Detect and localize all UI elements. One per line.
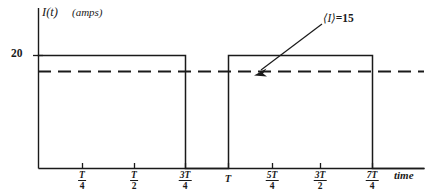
y-axis-symbol: I(t) bbox=[42, 5, 58, 19]
x-tick-label-five-t-quarters: 5T4 bbox=[266, 170, 279, 192]
x-tick-label-seven-t-quarters: 7T4 bbox=[366, 170, 379, 192]
y-axis-title: I(t)(amps) bbox=[42, 6, 103, 19]
fraction-denominator: 4 bbox=[266, 181, 279, 192]
x-tick-label-t-period: T bbox=[225, 170, 231, 185]
x-tick-label-t-quarter: T4 bbox=[78, 170, 86, 192]
annotation-leader-arrow bbox=[254, 24, 322, 77]
x-tick-label-three-t-quarters: 3T4 bbox=[179, 170, 192, 192]
y-axis-units: (amps) bbox=[72, 6, 103, 18]
fraction: 5T4 bbox=[266, 170, 279, 192]
fraction-denominator: 2 bbox=[314, 181, 327, 192]
fraction: 3T4 bbox=[179, 170, 192, 192]
fraction-denominator: 4 bbox=[366, 181, 379, 192]
mean-current-annotation: ⟨I⟩=15 bbox=[323, 13, 354, 25]
fraction-numerator: T bbox=[130, 170, 138, 181]
mean-current-symbol: ⟨I⟩ bbox=[323, 12, 336, 24]
current-vs-time-figure: I(t)(amps) 20 ⟨I⟩=15 time T4T23T4T5T43T2… bbox=[0, 0, 428, 192]
fraction-numerator: 7T bbox=[366, 170, 379, 181]
fraction: T2 bbox=[130, 170, 138, 192]
fraction: T4 bbox=[78, 170, 86, 192]
fraction: 3T2 bbox=[314, 170, 327, 192]
fraction-numerator: 3T bbox=[314, 170, 327, 181]
x-tick-label-three-t-halves: 3T2 bbox=[314, 170, 327, 192]
fraction-numerator: 5T bbox=[266, 170, 279, 181]
fraction-numerator: T bbox=[78, 170, 86, 181]
plot-canvas bbox=[0, 0, 428, 192]
fraction-denominator: 2 bbox=[130, 181, 138, 192]
fraction-numerator: 3T bbox=[179, 170, 192, 181]
fraction-denominator: 4 bbox=[179, 181, 192, 192]
x-axis-title: time bbox=[394, 170, 414, 181]
y-axis-tick-label-20: 20 bbox=[11, 48, 23, 60]
x-tick-label-t-half: T2 bbox=[130, 170, 138, 192]
mean-current-value: =15 bbox=[336, 12, 354, 24]
fraction: 7T4 bbox=[366, 170, 379, 192]
fraction-denominator: 4 bbox=[78, 181, 86, 192]
